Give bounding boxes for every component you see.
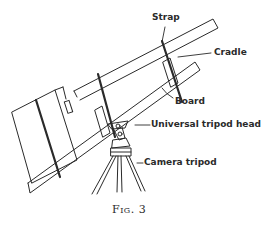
camera-box	[12, 87, 77, 183]
figure-caption: Fig. 3	[112, 203, 146, 216]
label-camera-tripod: Camera tripod	[144, 158, 217, 167]
diagram-drawing	[0, 0, 264, 225]
strap-camera	[36, 100, 60, 177]
telescope-tube	[74, 19, 218, 100]
label-board: Board	[175, 97, 205, 106]
leader-lines	[135, 27, 211, 163]
leader-cradle	[178, 53, 211, 57]
label-strap: Strap	[152, 13, 180, 22]
telescope-mount-diagram: Strap Cradle Board Universal tripod head…	[0, 0, 264, 225]
label-universal-tripod-head: Universal tripod head	[151, 120, 261, 129]
camera-tripod	[92, 156, 145, 194]
strap-right	[162, 41, 182, 102]
leader-strap	[162, 27, 165, 42]
label-cradle: Cradle	[214, 48, 247, 57]
